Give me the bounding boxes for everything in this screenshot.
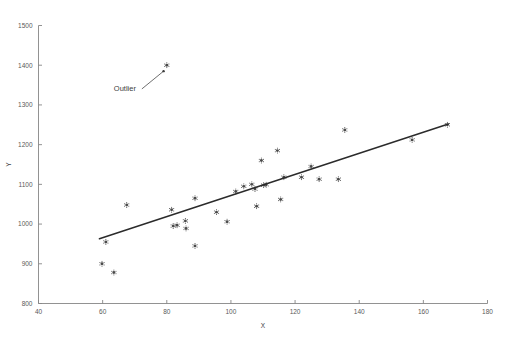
data-point-arm [173, 228, 174, 229]
data-point-arm [299, 176, 300, 177]
data-point-arm [313, 165, 314, 166]
data-point-arm [252, 190, 253, 191]
data-point-arm [309, 165, 310, 166]
data-point-arm [195, 195, 196, 196]
data-point-arm [254, 207, 255, 208]
data-point-arm [164, 66, 165, 67]
data-point-arm [229, 220, 230, 221]
data-point-arm [233, 192, 234, 193]
data-point-arm [183, 229, 184, 230]
data-point-dot [411, 138, 414, 141]
data-point-arm [103, 243, 104, 244]
data-point-dot [276, 149, 279, 152]
data-point-arm [285, 176, 286, 177]
data-point-dot [234, 190, 237, 193]
data-point-dot [165, 64, 168, 67]
data-point-arm [177, 227, 178, 228]
data-point-arm [278, 198, 279, 199]
data-point-arm [237, 190, 238, 191]
data-point-arm [303, 178, 304, 179]
data-point-arm [188, 227, 189, 228]
data-point-arm [282, 200, 283, 201]
data-point-arm [338, 181, 339, 182]
data-point-dot [337, 178, 340, 181]
data-point-arm [177, 222, 178, 223]
annotation-arrow-head [162, 70, 164, 72]
data-point-dot [101, 262, 104, 265]
data-point-arm [245, 187, 246, 188]
data-point-arm [263, 159, 264, 160]
data-point-arm [166, 62, 167, 63]
plot-background [0, 0, 508, 341]
data-point-arm [263, 187, 264, 188]
data-point-arm [303, 176, 304, 177]
data-point-dot [125, 204, 128, 207]
y-tick-label: 1100 [19, 181, 33, 188]
x-tick-label: 40 [35, 308, 43, 315]
data-point-dot [172, 225, 175, 228]
x-tick-label: 100 [225, 308, 236, 315]
data-point-arm [216, 214, 217, 215]
data-point-arm [340, 180, 341, 181]
data-point-arm [301, 174, 302, 175]
data-point-arm [256, 208, 257, 209]
data-point-dot [260, 159, 263, 162]
data-point-arm [243, 188, 244, 189]
data-point-arm [243, 183, 244, 184]
data-point-arm [214, 213, 215, 214]
data-point-arm [235, 189, 236, 190]
data-point-arm [317, 180, 318, 181]
data-point-arm [259, 159, 260, 160]
data-point-arm [277, 153, 278, 154]
data-point-arm [253, 185, 254, 186]
y-tick-label: 900 [22, 260, 33, 267]
data-point-arm [264, 186, 265, 187]
data-point-arm [299, 178, 300, 179]
data-point-arm [168, 64, 169, 65]
data-point-arm [188, 229, 189, 230]
data-point-arm [319, 181, 320, 182]
data-point-arm [183, 227, 184, 228]
data-point-arm [344, 127, 345, 128]
data-point-arm [126, 207, 127, 208]
data-point-arm [173, 208, 174, 209]
data-point-arm [249, 183, 250, 184]
data-point-arm [197, 199, 198, 200]
data-point-arm [280, 201, 281, 202]
data-point-arm [414, 141, 415, 142]
data-point-arm [321, 178, 322, 179]
y-tick-label: 1300 [18, 101, 33, 108]
y-tick-label: 1200 [18, 141, 33, 148]
data-point-arm [229, 222, 230, 223]
data-point-arm [116, 273, 117, 274]
data-point-arm [261, 184, 262, 185]
data-point-arm [171, 207, 172, 208]
annotation-label-outlier: Outlier [114, 84, 137, 93]
data-point-arm [275, 149, 276, 150]
data-point-arm [104, 262, 105, 263]
chart-canvas: 406080100120140160180 800900100011001200… [0, 0, 508, 341]
data-point-arm [171, 224, 172, 225]
data-point-arm [245, 185, 246, 186]
y-tick-label: 1400 [18, 62, 33, 69]
data-point-arm [447, 127, 448, 128]
data-point-arm [197, 197, 198, 198]
data-point-arm [187, 219, 188, 220]
data-point-arm [113, 274, 114, 275]
data-point-arm [192, 199, 193, 200]
data-point-arm [171, 212, 172, 213]
data-point-arm [186, 226, 187, 227]
scatter-plot-figure: 406080100120140160180 800900100011001200… [0, 0, 508, 341]
x-tick-label: 180 [482, 308, 493, 315]
data-point-arm [195, 243, 196, 244]
data-point-arm [340, 178, 341, 179]
data-point-dot [343, 128, 346, 131]
data-point-dot [194, 244, 197, 247]
data-point-arm [175, 227, 176, 228]
data-point-arm [259, 161, 260, 162]
data-point-arm [116, 271, 117, 272]
data-point-dot [318, 178, 321, 181]
data-point-dot [185, 227, 188, 230]
data-point-arm [257, 190, 258, 191]
x-tick-label: 160 [418, 308, 429, 315]
